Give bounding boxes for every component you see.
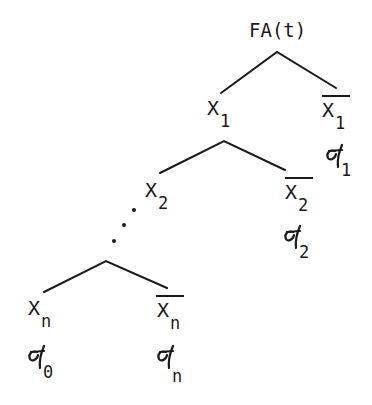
branch-x1 [160,141,285,173]
node-xn-subscript: n [41,311,51,331]
prob-sigma-0-subscript: 0 [43,364,53,381]
ellipsis-dot-1 [132,208,136,212]
node-x1-subscript: 1 [220,111,230,131]
tree-edges [0,0,372,405]
prob-sigma-n-subscript: n [172,368,182,385]
negation-bar-x1 [322,95,350,97]
branch-xn-parent [44,261,167,292]
ellipsis-dot-2 [122,223,126,227]
ellipsis-dot-3 [112,239,116,243]
negation-bar-xn [156,295,184,297]
node-x1-label: X [207,96,219,120]
prob-glyph-n [158,346,173,368]
node-xn-negated-label: X [157,298,169,322]
node-x1-negated-label: X [322,98,334,122]
prob-glyph-1 [327,145,342,167]
prob-glyph-0 [29,346,44,368]
node-x2-negated-subscript: 2 [298,195,308,215]
node-x1-negated-subscript: 1 [335,113,345,133]
node-x2-negated: X2 [285,182,308,202]
fault-tree-diagram: FA(t) X1 X1 1 X2 X2 2 Xn 0 Xn n [0,0,372,405]
node-x2-subscript: 2 [158,193,168,213]
node-x2: X2 [145,180,168,200]
prob-sigma-1-subscript: 1 [341,162,351,179]
branch-root [221,52,336,93]
prob-glyph-2 [285,226,300,248]
root-text: FA(t) [249,19,306,41]
root-node-label: FA(t) [249,21,306,40]
node-xn-negated: Xn [157,300,180,320]
node-x2-negated-label: X [285,180,297,204]
node-xn: Xn [28,298,51,318]
node-xn-label: X [28,296,40,320]
negation-bar-x2 [285,177,313,179]
node-x1: X1 [207,98,230,118]
node-xn-negated-subscript: n [170,313,180,333]
node-x1-negated: X1 [322,100,345,120]
node-x2-label: X [145,178,157,202]
prob-sigma-2-subscript: 2 [299,244,309,261]
